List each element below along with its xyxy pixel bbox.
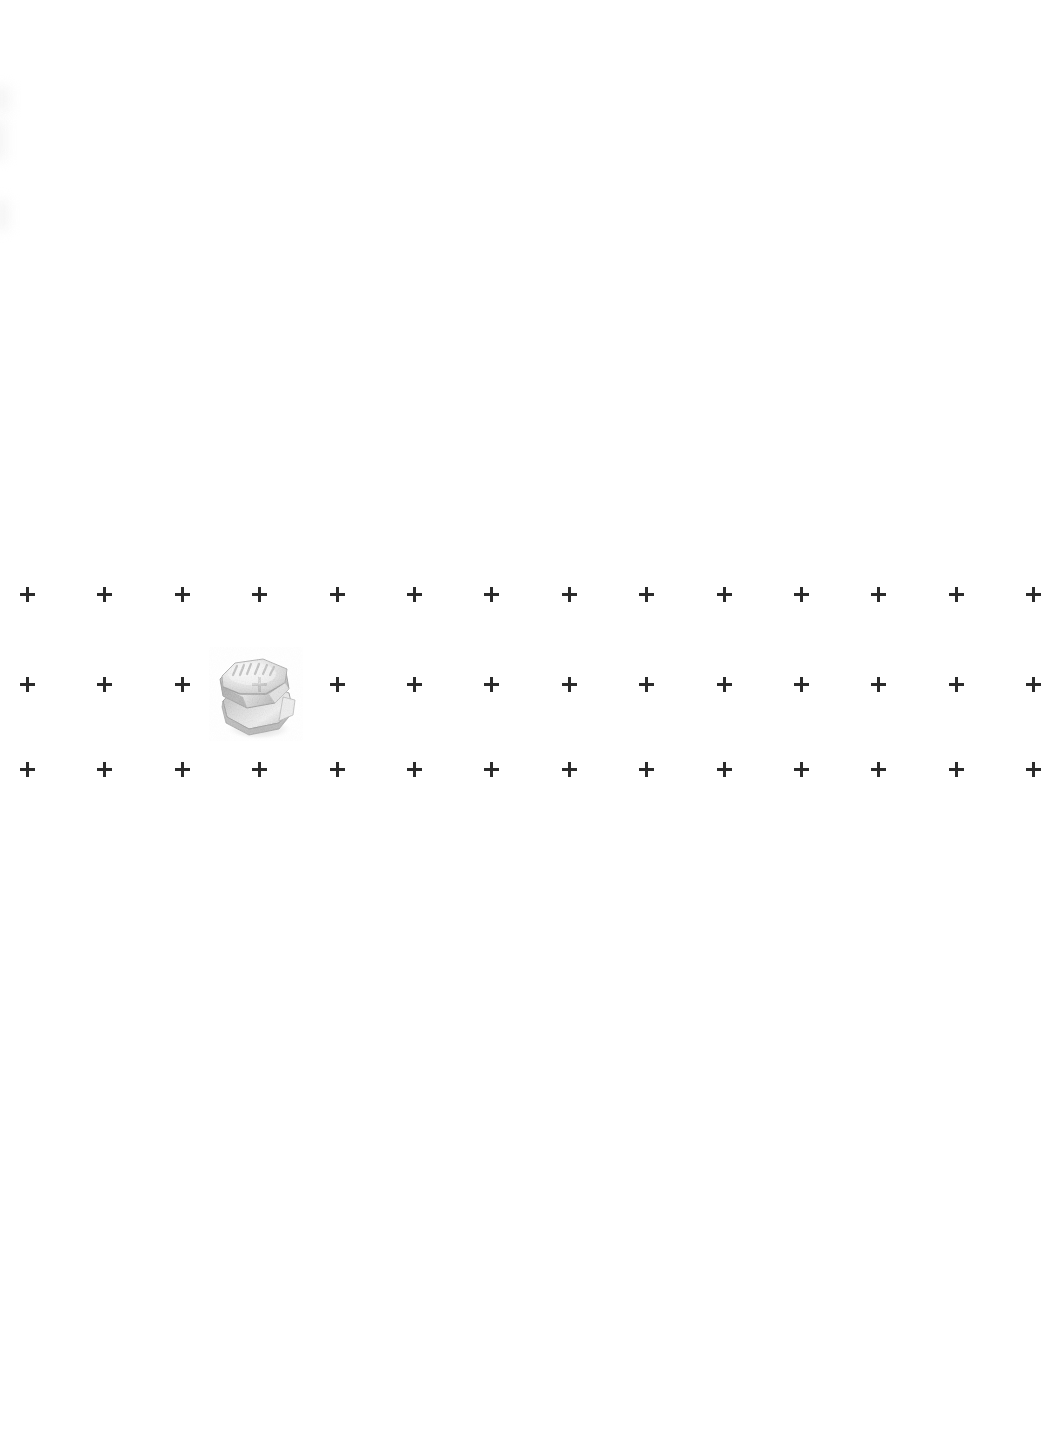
cross-vertical-stroke [877,587,880,602]
fiducial-cross-mark [175,762,190,777]
cross-vertical-stroke [645,762,648,777]
fiducial-cross-mark [1026,677,1041,692]
fiducial-cross-mark [871,677,886,692]
fiducial-cross-mark [407,587,422,602]
cross-vertical-stroke [181,587,184,602]
fiducial-cross-mark [20,762,35,777]
fiducial-cross-mark [407,677,422,692]
cross-vertical-stroke [336,587,339,602]
cross-vertical-stroke [645,587,648,602]
cross-vertical-stroke [103,587,106,602]
cross-vertical-stroke [336,762,339,777]
cross-vertical-stroke [181,677,184,692]
cross-vertical-stroke [723,677,726,692]
cross-vertical-stroke [26,762,29,777]
cross-vertical-stroke [336,677,339,692]
cross-vertical-stroke [800,587,803,602]
fiducial-cross-mark [252,762,267,777]
fiducial-cross-mark [252,587,267,602]
fiducial-cross-mark [794,587,809,602]
fiducial-cross-mark [484,762,499,777]
cross-vertical-stroke [1032,762,1035,777]
fiducial-cross-mark [97,677,112,692]
cross-vertical-stroke [1032,587,1035,602]
fiducial-cross-mark [484,677,499,692]
fiducial-cross-mark [562,762,577,777]
fiducial-cross-mark [794,762,809,777]
fiducial-cross-mark [871,762,886,777]
specular-highlight [228,663,276,685]
cross-vertical-stroke [877,677,880,692]
cross-vertical-stroke [955,587,958,602]
cross-vertical-stroke [258,762,261,777]
cross-vertical-stroke [258,587,261,602]
fiducial-cross-mark [639,677,654,692]
cross-vertical-stroke [645,677,648,692]
cross-vertical-stroke [568,677,571,692]
cross-vertical-stroke [413,587,416,602]
fiducial-cross-mark [717,587,732,602]
fiducial-cross-mark [949,677,964,692]
hex-flange-bolt-illustration [209,645,303,741]
cross-vertical-stroke [1032,677,1035,692]
hex-flange-bolt [209,645,303,741]
scan-smudge-artifact [0,86,10,112]
fiducial-cross-mark [639,587,654,602]
fiducial-cross-mark [949,762,964,777]
fiducial-cross-mark [562,677,577,692]
cross-vertical-stroke [103,677,106,692]
fiducial-cross-mark [330,587,345,602]
cross-vertical-stroke [181,762,184,777]
fiducial-cross-mark [330,677,345,692]
fiducial-cross-mark [175,677,190,692]
cross-vertical-stroke [413,762,416,777]
fiducial-cross-mark [1026,587,1041,602]
fiducial-cross-mark [330,762,345,777]
cross-vertical-stroke [103,762,106,777]
fiducial-cross-mark [1026,762,1041,777]
scan-smudge-artifact [0,200,9,230]
cross-vertical-stroke [955,762,958,777]
cross-vertical-stroke [800,677,803,692]
fiducial-cross-mark [407,762,422,777]
cross-vertical-stroke [490,762,493,777]
cross-vertical-stroke [800,762,803,777]
scan-smudge-artifact [0,120,6,160]
fiducial-cross-mark [97,587,112,602]
fiducial-cross-mark [175,587,190,602]
fiducial-cross-mark [871,587,886,602]
fiducial-cross-mark [639,762,654,777]
cross-vertical-stroke [568,762,571,777]
cross-vertical-stroke [723,587,726,602]
cross-vertical-stroke [723,762,726,777]
cross-vertical-stroke [26,587,29,602]
fiducial-cross-mark [562,587,577,602]
fiducial-cross-mark [20,677,35,692]
cross-vertical-stroke [877,762,880,777]
object-body [220,659,295,735]
scanned-page [0,0,1042,1440]
fiducial-cross-mark [717,677,732,692]
cross-vertical-stroke [26,677,29,692]
fiducial-cross-mark [97,762,112,777]
fiducial-cross-mark [717,762,732,777]
cross-vertical-stroke [490,677,493,692]
fiducial-cross-mark [484,587,499,602]
fiducial-cross-mark [20,587,35,602]
cross-vertical-stroke [955,677,958,692]
cross-vertical-stroke [568,587,571,602]
fiducial-cross-mark [949,587,964,602]
fiducial-cross-mark [794,677,809,692]
cross-vertical-stroke [413,677,416,692]
cross-vertical-stroke [490,587,493,602]
